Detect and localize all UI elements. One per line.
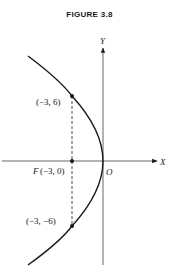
point-top-label: (−3, 6) — [36, 97, 61, 107]
point-bottom — [70, 224, 74, 228]
parabola-curve — [28, 56, 103, 265]
x-axis-label: X — [159, 157, 166, 167]
focus-prefix-label: F — [32, 166, 39, 176]
y-axis-label: Y — [100, 36, 106, 46]
focus-label: (−3, 0) — [40, 166, 65, 176]
point-focus — [70, 159, 74, 163]
origin-label: O — [106, 167, 113, 177]
point-bottom-label: (−3, −6) — [26, 216, 56, 226]
point-top — [70, 94, 74, 98]
parabola-diagram: Y X O (−3, 6) F (−3, 0) (−3, −6) — [0, 0, 179, 277]
